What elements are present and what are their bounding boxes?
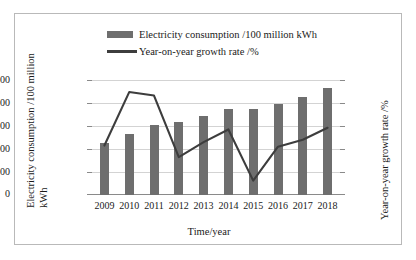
ytick-left-0: 0 [0,189,10,199]
ytick-left-1500: 1500 [0,121,10,131]
y-axis-left-title: Electricity consumption /100 million kWh [37,62,65,212]
chart-legend: Electricity consumption /100 million kWh… [107,26,377,60]
xtick-2018: 2018 [313,200,343,211]
line-swatch-icon [107,50,137,53]
tickmark-right-10 [340,126,345,127]
growth-rate-polyline [104,92,327,181]
growth-rate-line [92,80,340,195]
legend-item-electricity-consumption: Electricity consumption /100 million kWh [107,26,377,43]
tickmark-right-m2 [340,194,345,195]
bar-swatch-icon [107,31,133,38]
tickmark-right-14 [340,103,345,104]
ytick-left-1000: 1000 [0,144,10,154]
chart-frame: Electricity consumption /100 million kWh… [14,13,402,245]
y-axis-right-title: Year-on-year growth rate /% [389,62,405,220]
legend-label-growth-rate: Year-on-year growth rate /% [139,46,259,57]
plot-area: 2009 2010 2011 2012 2013 2014 2015 2016 … [92,80,340,195]
legend-item-growth-rate: Year-on-year growth rate /% [107,43,377,60]
tickmark-right-6 [340,149,345,150]
y-axis-right-title-text: Year-on-year growth rate /% [379,100,391,220]
ytick-left-500: 500 [0,167,10,177]
tickmark-right-2 [340,172,345,173]
tickmark-right-18 [340,80,345,81]
y-axis-left-title-line2: kWh [38,188,50,208]
legend-label-electricity-consumption: Electricity consumption /100 million kWh [139,29,317,40]
x-axis-title: Time/year [15,226,403,237]
y-axis-left-title-line1: Electricity consumption /100 million [25,53,37,208]
ytick-left-2500: 2500 [0,75,10,85]
ytick-left-2000: 2000 [0,98,10,108]
